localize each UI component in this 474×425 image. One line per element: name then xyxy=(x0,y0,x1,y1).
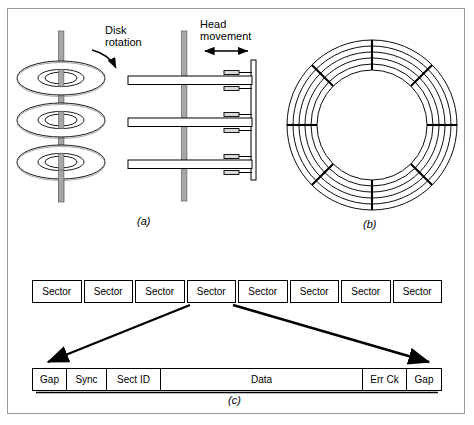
head-movement-label: Head movement xyxy=(200,18,251,43)
field-sync: Sync xyxy=(67,369,107,390)
sector-cell: Sector xyxy=(290,280,340,303)
panel-c-expansion-arrows xyxy=(48,305,429,362)
sector-cell: Sector xyxy=(135,280,185,303)
field-err-ck: Err Ck xyxy=(363,369,407,390)
panel-a-head-assembly xyxy=(128,31,256,201)
platter-1 xyxy=(17,61,105,97)
head-arm-3 xyxy=(128,155,252,175)
expansion-arrow-right xyxy=(233,305,429,362)
sector-cell: Sector xyxy=(341,280,391,303)
sector-cell: Sector xyxy=(84,280,134,303)
field-sect-id: Sect ID xyxy=(107,369,161,390)
panel-a-platter-stack xyxy=(17,31,116,202)
sector-cell: Sector xyxy=(32,280,82,303)
sector-strip: Sector Sector Sector Sector Sector Secto… xyxy=(32,280,442,303)
field-gap-right: Gap xyxy=(407,369,441,390)
head-arm-2 xyxy=(128,113,252,133)
panel-caption-a: (a) xyxy=(137,215,150,227)
side-view-spindle xyxy=(182,31,187,201)
head-arm-1 xyxy=(128,71,252,91)
disk-rotation-label: Disk rotation xyxy=(105,24,142,49)
head-movement-line-2: movement xyxy=(200,30,251,42)
disk-rotation-line-2: rotation xyxy=(105,36,142,48)
platter-2 xyxy=(17,103,105,139)
expansion-arrow-left xyxy=(48,305,190,362)
panel-caption-c: (c) xyxy=(228,394,241,406)
disk-rotation-arrow xyxy=(92,50,116,68)
field-data: Data xyxy=(161,369,363,390)
figure-root: Disk rotation Head movement (a) (b) (c) … xyxy=(0,0,474,425)
sector-cell: Sector xyxy=(187,280,237,303)
sector-cell: Sector xyxy=(238,280,288,303)
sector-cell: Sector xyxy=(393,280,443,303)
figure-artwork xyxy=(0,0,474,425)
sector-format-strip: Gap Sync Sect ID Data Err Ck Gap xyxy=(32,368,442,391)
panel-b-sector-dividers xyxy=(287,40,457,210)
panel-caption-b: (b) xyxy=(363,218,376,230)
disk-rotation-line-1: Disk xyxy=(105,24,142,36)
field-gap-left: Gap xyxy=(33,369,67,390)
head-movement-line-1: Head xyxy=(200,18,251,30)
